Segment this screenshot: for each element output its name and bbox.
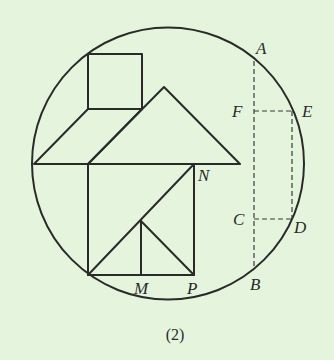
parallelogram [34,109,142,164]
label-f: F [231,102,243,121]
mp-diagonal-line [141,221,194,275]
large-triangle [88,87,240,164]
label-a: A [255,39,267,58]
label-n: N [197,166,211,185]
label-e: E [301,102,313,121]
small-square [88,54,142,109]
label-b: B [250,275,261,294]
tangram-circle-diagram: A F E N C D M P B (2) [0,0,334,360]
label-p: P [186,279,197,298]
label-c: C [233,210,245,229]
label-m: M [133,279,149,298]
figure-caption: (2) [166,326,185,344]
label-d: D [293,218,307,237]
